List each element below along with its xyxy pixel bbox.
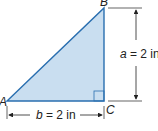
label-b: b = 2 in <box>36 108 76 122</box>
vertex-b: B <box>100 0 108 9</box>
label-a: a = 2 in <box>120 47 158 61</box>
triangle <box>7 8 104 101</box>
vertex-c: C <box>106 103 115 117</box>
vertex-a: A <box>0 95 7 109</box>
right-triangle-diagram: a = 2 in b = 2 in A B C <box>0 0 158 131</box>
